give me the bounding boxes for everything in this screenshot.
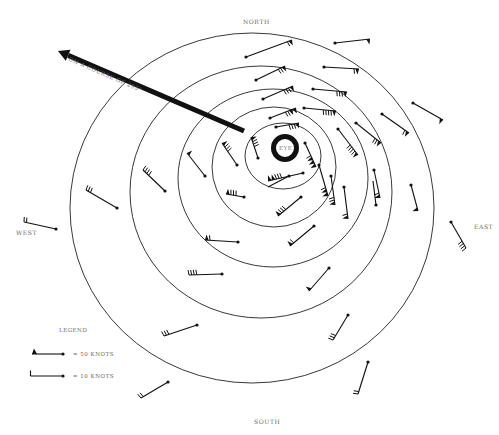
legend-10-knots-label: = 10 KNOTS — [73, 373, 114, 379]
wind-barb — [143, 166, 167, 193]
wind-barb — [254, 66, 286, 82]
wind-barb — [261, 86, 294, 101]
legend-title: LEGEND — [59, 327, 87, 333]
wind-barb — [205, 235, 240, 244]
hurricane-wind-diagram — [0, 0, 499, 435]
wind-barb — [342, 185, 348, 219]
wind-barb — [306, 266, 331, 291]
wind-barb — [251, 136, 260, 159]
wind-barb — [86, 185, 119, 209]
compass-south-label: SOUTH — [254, 418, 280, 425]
legend-symbols — [31, 349, 65, 378]
wind-barb — [187, 151, 207, 178]
wind-barb — [311, 87, 347, 97]
wind-barb — [328, 313, 349, 340]
wind-barb — [138, 380, 170, 398]
wind-barb — [222, 141, 239, 167]
wind-barb — [162, 323, 199, 336]
wind-barb — [188, 270, 224, 276]
wind-barb — [303, 141, 316, 168]
wind-barb — [274, 123, 299, 130]
legend-barb-symbol — [31, 371, 65, 378]
wind-barb — [317, 163, 328, 196]
wind-barb — [322, 65, 359, 74]
wind-barb — [226, 189, 246, 199]
wind-barb — [268, 171, 305, 181]
compass-east-label: EAST — [474, 223, 493, 230]
isotach-ring-2 — [130, 66, 392, 318]
compass-north-label: NORTH — [243, 18, 270, 25]
legend-50-knots-label: = 50 KNOTS — [73, 351, 114, 357]
wind-barb — [275, 195, 302, 216]
wind-barb — [268, 108, 296, 120]
eye-label: EYE — [279, 145, 292, 151]
wind-barb — [411, 101, 443, 124]
wind-barb — [244, 40, 292, 59]
wind-barb — [333, 39, 370, 45]
wind-barb — [449, 220, 466, 251]
legend-pennant-symbol — [32, 349, 65, 356]
wind-barb — [409, 183, 418, 211]
wind-barb — [287, 224, 315, 246]
compass-west-label: WEST — [16, 229, 37, 236]
wind-barb — [380, 112, 409, 136]
wind-barb — [353, 360, 370, 394]
